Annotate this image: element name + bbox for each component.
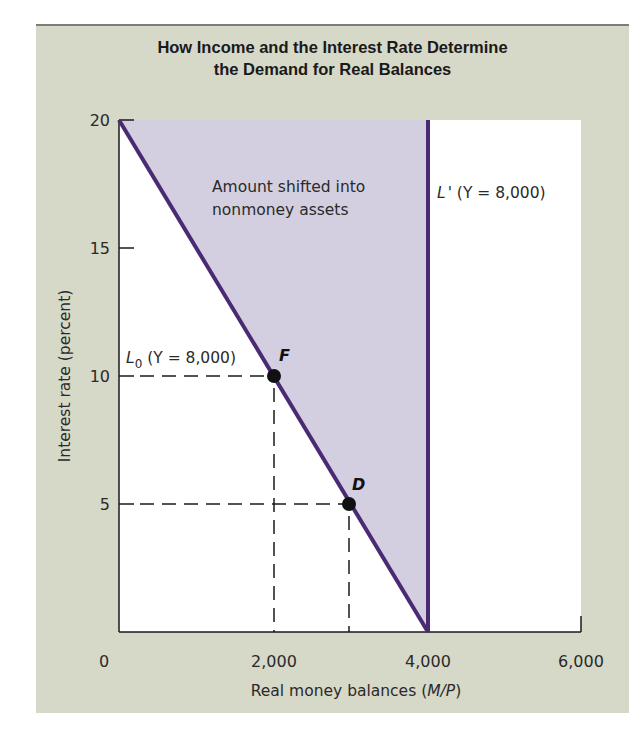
- x-axis-title: Real money balances (M/P): [251, 682, 461, 700]
- lprime-curve-label: L' (Y = 8,000): [437, 184, 546, 202]
- shaded-region-label-line-2: nonmoney assets: [212, 201, 349, 219]
- point-F-label: F: [279, 346, 290, 365]
- y-tick-label-10: 10: [90, 367, 110, 386]
- y-tick-label-20: 20: [90, 111, 110, 130]
- x-tick-label-6000: 6,000: [558, 652, 604, 671]
- y-axis-title: Interest rate (percent): [56, 290, 74, 463]
- x-tick-label-0: 0: [99, 652, 109, 671]
- point-D-label: D: [352, 475, 365, 494]
- x-tick-label-2000: 2,000: [251, 652, 297, 671]
- y-tick-label-15: 15: [90, 239, 110, 258]
- shaded-region-label-line-1: Amount shifted into: [212, 178, 365, 196]
- y-tick-label-5: 5: [100, 495, 110, 514]
- point-F: [267, 369, 281, 383]
- point-D: [342, 497, 356, 511]
- chart-svg: F D 20 15 10 5 0 2,000 4,000 6,000 Real …: [0, 0, 629, 740]
- x-tick-label-4000: 4,000: [405, 652, 451, 671]
